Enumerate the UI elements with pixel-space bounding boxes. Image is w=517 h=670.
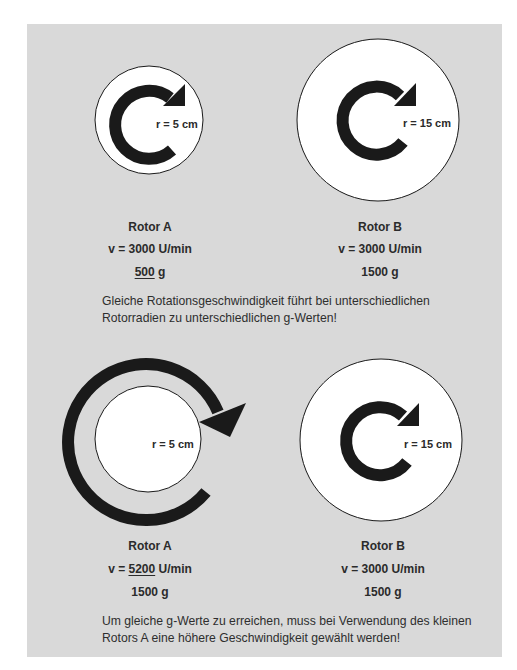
caption-top: Gleiche Rotationsgeschwindigkeit führt b…: [102, 293, 492, 326]
rotor-speed: v = 5200 U/min: [90, 562, 210, 576]
caption-line: Um gleiche g-Werte zu erreichen, muss be…: [102, 613, 492, 630]
rotor-g-value: 1500 g: [323, 585, 443, 599]
radius-label: r = 5 cm: [156, 118, 198, 130]
rotor-speed: v = 3000 U/min: [320, 242, 440, 256]
rotor-g-value: 500 g: [90, 265, 210, 279]
rotor-g-value: 1500 g: [90, 585, 210, 599]
radius-label: r = 15 cm: [403, 117, 451, 129]
radius-label: r = 15 cm: [404, 438, 452, 450]
radius-label: r = 5 cm: [152, 438, 194, 450]
rotor-name: Rotor A: [90, 539, 210, 553]
caption-line: Rotors A eine höhere Geschwindigkeit gew…: [102, 630, 492, 647]
caption-line: Gleiche Rotationsgeschwindigkeit führt b…: [102, 293, 492, 310]
rotor-speed: v = 3000 U/min: [90, 242, 210, 256]
rotor-name: Rotor A: [90, 220, 210, 234]
rotor-name: Rotor B: [320, 220, 440, 234]
rotor-name: Rotor B: [323, 539, 443, 553]
rotor-speed: v = 3000 U/min: [323, 562, 443, 576]
rotor-g-value: 1500 g: [320, 265, 440, 279]
caption-line: Rotorradien zu unterschiedlichen g-Werte…: [102, 310, 492, 327]
caption-bottom: Um gleiche g-Werte zu erreichen, muss be…: [102, 613, 492, 646]
